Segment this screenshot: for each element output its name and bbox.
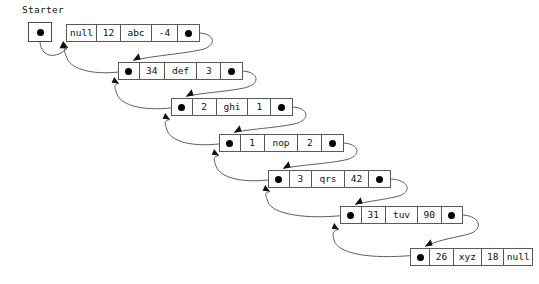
list-node[interactable]: 3 qrs 42 [268, 170, 391, 188]
arrow-backward-node-4-to-node-3 [212, 149, 275, 181]
node-1-cell-next [221, 63, 242, 79]
arrow-backward-node-6-to-node-5 [332, 223, 417, 257]
node-2-prev-dot [178, 104, 185, 111]
node-6-cell-int-1: 26 [430, 249, 453, 265]
list-node[interactable]: null 12 abc -4 [66, 24, 200, 42]
node-4-prev-dot [275, 176, 282, 183]
node-2-next-dot [278, 104, 285, 111]
node-6-cell-prev [411, 249, 430, 265]
arrow-backward-node-3-to-node-2 [163, 113, 226, 145]
node-5-cell-next [442, 207, 462, 223]
linked-list-diagram: Starter [0, 0, 539, 284]
list-node[interactable]: 34 def 3 [118, 62, 243, 80]
node-4-cell-string: qrs [312, 171, 344, 187]
node-2-cell-int-2: 1 [248, 99, 271, 115]
node-0-cell-prev: null [67, 25, 97, 41]
arrow-backward-node-5-to-node-4 [263, 185, 347, 217]
node-6-prev-dot [417, 254, 424, 261]
node-2-cell-next [271, 99, 292, 115]
starter-pointer-box[interactable] [28, 22, 52, 42]
node-6-cell-string: xyz [454, 249, 483, 265]
node-4-cell-prev [269, 171, 290, 187]
node-1-cell-int-1: 34 [140, 63, 165, 79]
node-4-cell-int-1: 3 [290, 171, 313, 187]
list-node[interactable]: 2 ghi 1 [171, 98, 293, 116]
node-5-cell-int-2: 90 [418, 207, 441, 223]
node-2-cell-string: ghi [217, 99, 249, 115]
list-node[interactable]: 1 nop 2 [219, 134, 344, 152]
node-1-cell-int-2: 3 [197, 63, 221, 79]
node-0-next-dot [185, 30, 192, 37]
node-3-cell-string: nop [265, 135, 299, 151]
node-6-cell-int-2: 18 [482, 249, 504, 265]
arrow-backward-node-2-to-node-1 [112, 77, 178, 109]
node-3-next-dot [329, 140, 336, 147]
arrow-backward-node-1-to-node-0 [61, 41, 126, 73]
node-0-cell-int-2: -4 [152, 25, 178, 41]
node-0-cell-int-1: 12 [97, 25, 121, 41]
node-5-cell-string: tuv [386, 207, 418, 223]
node-4-cell-int-2: 42 [345, 171, 370, 187]
node-1-cell-prev [119, 63, 140, 79]
list-node[interactable]: 26 xyz 18 null [410, 248, 533, 266]
list-node[interactable]: 31 tuv 90 [340, 206, 463, 224]
node-5-next-dot [448, 212, 455, 219]
node-4-cell-next [369, 171, 390, 187]
node-5-cell-prev [341, 207, 362, 223]
node-5-prev-dot [347, 212, 354, 219]
node-3-cell-int-1: 1 [241, 135, 265, 151]
node-3-prev-dot [226, 140, 233, 147]
node-1-cell-string: def [165, 63, 198, 79]
node-6-cell-next: null [504, 249, 532, 265]
node-1-next-dot [228, 68, 235, 75]
node-0-cell-next [178, 25, 199, 41]
node-1-prev-dot [125, 68, 132, 75]
starter-label: Starter [22, 4, 64, 15]
node-2-cell-int-1: 2 [193, 99, 217, 115]
node-5-cell-int-1: 31 [362, 207, 386, 223]
node-3-cell-int-2: 2 [298, 135, 322, 151]
node-4-next-dot [376, 176, 383, 183]
node-3-cell-prev [220, 135, 241, 151]
node-2-cell-prev [172, 99, 193, 115]
starter-pointer-dot [37, 29, 44, 36]
arrow-starter-to-node-0 [40, 42, 67, 55]
node-0-cell-string: abc [121, 25, 152, 41]
node-3-cell-next [322, 135, 343, 151]
